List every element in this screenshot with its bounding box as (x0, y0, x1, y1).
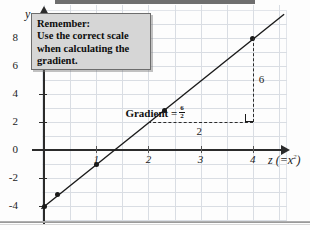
x-axis-expr-close: ) (297, 153, 301, 167)
callout-line-1: Use the correct scale (37, 30, 145, 42)
gradient-text: Gradient = (125, 107, 177, 119)
y-axis-tick-label: 0 (1, 143, 18, 155)
data-point-marker (94, 162, 99, 167)
gradient-rise-dashed-line (253, 38, 254, 122)
gradient-rise-label: 6 (259, 73, 265, 85)
graph-page: 86420-2-4 1234 y z (=x2) 2 6 Gradient = … (0, 0, 310, 230)
y-axis-tick-label: 8 (1, 31, 18, 43)
page-bottom-rule-secondary (0, 224, 310, 225)
gradient-run-label: 2 (197, 125, 203, 137)
gradient-fraction: 6 2 (179, 105, 185, 120)
page-top-edge-artifact (55, 0, 255, 4)
remember-callout-box: Remember: Use the correct scale when cal… (31, 13, 151, 70)
gradient-fraction-numerator: 6 (179, 105, 185, 112)
callout-line-0: Remember: (37, 18, 145, 30)
data-point-marker (42, 204, 47, 209)
y-axis-tick-label: 2 (1, 115, 18, 127)
page-bottom-rule (0, 221, 310, 223)
gradient-run-dashed-line (148, 122, 252, 123)
gradient-annotation: Gradient = 6 2 (125, 105, 184, 120)
y-axis-tick-label: -2 (1, 171, 18, 183)
data-point-marker (55, 192, 60, 197)
y-axis-tick-label: -4 (1, 199, 18, 211)
callout-line-2: when calculating the (37, 43, 145, 55)
y-axis-tick-label: 4 (1, 87, 18, 99)
gradient-fraction-denominator: 2 (179, 112, 185, 120)
y-axis-tick-label: 6 (1, 59, 18, 71)
callout-line-3: gradient. (37, 55, 145, 67)
right-angle-marker-icon (245, 114, 253, 122)
